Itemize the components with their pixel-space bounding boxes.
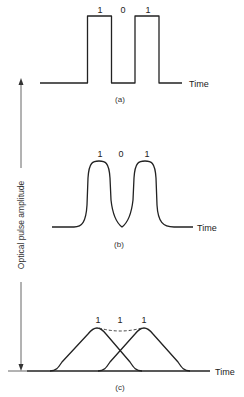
time-label-a: Time	[189, 79, 209, 89]
bit-label-a-3: 1	[145, 5, 150, 15]
arrow-up-icon	[19, 78, 24, 85]
bit-label-c-3: 1	[141, 315, 146, 325]
y-axis-label: Optical pulse amplitude	[16, 181, 26, 270]
waveform-c-pulse-1	[50, 328, 142, 371]
bit-label-b-2: 0	[118, 149, 123, 159]
bit-label-a-1: 1	[97, 5, 102, 15]
waveform-b	[52, 161, 193, 227]
envelope-dashed-line	[99, 328, 142, 331]
bit-label-c-2: 1	[117, 315, 122, 325]
bit-label-b-3: 1	[144, 149, 149, 159]
panel-a: 1 0 1 Time (a)	[40, 5, 209, 104]
caption-c: (c)	[115, 383, 125, 392]
bit-label-c-1: 1	[95, 315, 100, 325]
bit-label-a-2: 0	[120, 5, 125, 15]
waveform-a	[40, 16, 182, 83]
bit-label-b-1: 1	[97, 149, 102, 159]
caption-b: (b)	[114, 240, 124, 249]
panel-b: 1 0 1 Time (b)	[52, 149, 217, 249]
caption-a: (a)	[115, 95, 125, 104]
arrow-down-icon	[19, 364, 24, 371]
waveform-c-pulse-2	[98, 328, 190, 371]
panel-c: 1 1 1 Time (c)	[27, 315, 235, 392]
pulse-broadening-diagram: Optical pulse amplitude 1 0 1 Time (a) 1…	[0, 0, 244, 397]
y-axis: Optical pulse amplitude	[8, 78, 27, 371]
time-label-c: Time	[215, 367, 235, 377]
time-label-b: Time	[197, 223, 217, 233]
